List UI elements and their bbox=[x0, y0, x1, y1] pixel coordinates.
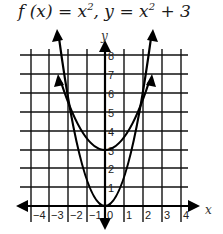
x-tick: −3 bbox=[51, 209, 64, 221]
y-tick: 1 bbox=[108, 182, 114, 194]
y-tick: 8 bbox=[108, 50, 114, 62]
x-tick: −4 bbox=[33, 209, 46, 221]
x-tick: −1 bbox=[89, 209, 102, 221]
x-tick: 2 bbox=[145, 209, 151, 221]
curve-arrow-icon bbox=[146, 74, 156, 87]
x-tick: 0 bbox=[107, 209, 113, 221]
x-tick: 1 bbox=[126, 209, 132, 221]
x-axis-left-arrow-icon bbox=[16, 200, 28, 212]
y-tick: 7 bbox=[108, 69, 114, 81]
x-tick: −2 bbox=[70, 209, 83, 221]
curve-arrow-icon bbox=[54, 74, 64, 87]
x-tick: 4 bbox=[183, 209, 189, 221]
x-tick: 3 bbox=[164, 209, 170, 221]
parabola-chart: y x 1 2 3 4 5 6 7 8 −4 −3 −2 −1 0 1 2 3 … bbox=[0, 0, 223, 234]
x-axis-label: x bbox=[205, 203, 212, 217]
y-axis-label: y bbox=[100, 29, 108, 43]
x-axis-right-arrow-icon bbox=[188, 200, 200, 212]
y-tick: 2 bbox=[108, 163, 114, 175]
y-tick: 6 bbox=[108, 88, 114, 100]
y-tick: 4 bbox=[108, 126, 114, 138]
y-tick: 5 bbox=[108, 107, 114, 119]
curve-arrow-icon bbox=[52, 29, 63, 42]
curve-arrow-icon bbox=[147, 29, 158, 42]
